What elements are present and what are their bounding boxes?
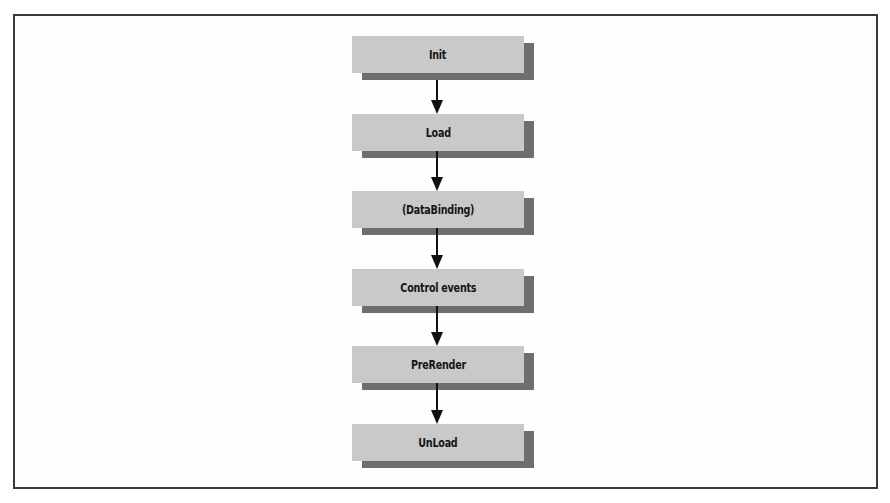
node-box: (DataBinding) — [352, 191, 524, 228]
node-box: Init — [352, 36, 524, 73]
node-databinding: (DataBinding) — [352, 191, 524, 228]
node-control-events: Control events — [352, 269, 524, 306]
node-box: Control events — [352, 269, 524, 306]
arrow-prerender-to-unload — [431, 383, 443, 424]
node-init: Init — [352, 36, 524, 73]
arrow-down-icon — [431, 100, 443, 114]
arrow-databinding-to-control-events — [431, 228, 443, 269]
arrow-line — [436, 80, 438, 102]
arrow-line — [436, 228, 438, 257]
node-box: Load — [352, 114, 524, 151]
arrow-control-events-to-prerender — [431, 306, 443, 346]
arrow-line — [436, 306, 438, 334]
node-label: UnLoad — [418, 435, 457, 450]
node-label: Init — [429, 47, 446, 62]
arrow-down-icon — [431, 332, 443, 346]
arrow-load-to-databinding — [431, 151, 443, 191]
node-load: Load — [352, 114, 524, 151]
node-prerender: PreRender — [352, 346, 524, 383]
arrow-down-icon — [431, 255, 443, 269]
node-label: PreRender — [411, 357, 466, 372]
node-box: UnLoad — [352, 424, 524, 461]
arrow-down-icon — [431, 410, 443, 424]
arrow-line — [436, 151, 438, 179]
arrow-init-to-load — [431, 80, 443, 114]
arrow-down-icon — [431, 177, 443, 191]
node-unload: UnLoad — [352, 424, 524, 461]
node-box: PreRender — [352, 346, 524, 383]
node-label: Control events — [400, 280, 476, 295]
node-label: Load — [425, 125, 450, 140]
arrow-line — [436, 383, 438, 412]
diagram-frame — [13, 14, 878, 489]
node-label: (DataBinding) — [402, 202, 474, 217]
